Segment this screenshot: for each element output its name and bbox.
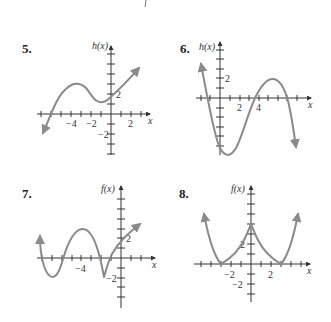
- svg-text:−2: −2: [86, 118, 97, 129]
- y-axis-label: h(x): [199, 41, 216, 53]
- svg-text:−2: −2: [98, 129, 109, 140]
- svg-text:−2: −2: [232, 279, 243, 290]
- graph-5: h(x) x −4 −2 2 2 −2: [37, 40, 153, 155]
- y-axis-label: f(x): [231, 183, 246, 195]
- graphs-canvas: h(x) x −4 −2 2 2 −2 h(x) x 2 4 2: [0, 0, 331, 322]
- x-axis-label: x: [147, 115, 153, 126]
- svg-text:−2: −2: [106, 273, 117, 284]
- x-axis-label: x: [307, 99, 313, 110]
- x-axis-label: x: [151, 259, 157, 270]
- svg-text:2: 2: [237, 102, 242, 113]
- svg-text:2: 2: [268, 269, 273, 280]
- cropped-remnant: [145, 0, 146, 7]
- svg-text:4: 4: [256, 102, 261, 113]
- curve-h6: [201, 64, 296, 155]
- graph-7: f(x) x −4 2 −2: [37, 183, 157, 308]
- graph-8: f(x) x −2 2 2 −2: [194, 183, 312, 302]
- svg-text:−4: −4: [75, 263, 86, 274]
- y-axis-label: h(x): [92, 40, 109, 52]
- x-axis-label: x: [306, 265, 312, 276]
- y-axis-label: f(x): [101, 183, 116, 195]
- svg-text:2: 2: [128, 118, 133, 129]
- graph-6: h(x) x 2 4 2: [196, 41, 313, 155]
- svg-text:2: 2: [225, 73, 230, 84]
- svg-text:−4: −4: [66, 118, 77, 129]
- curve-f7: [40, 224, 140, 277]
